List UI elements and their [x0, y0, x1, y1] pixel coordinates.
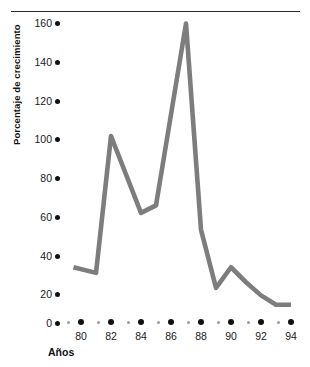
- y-tick-label-80: 80: [26, 172, 52, 184]
- y-tick-dot-40: [55, 254, 60, 259]
- y-tick-label-140: 140: [26, 56, 52, 68]
- x-tick-dot-89: [217, 321, 220, 324]
- y-tick-dot-20: [55, 292, 60, 297]
- x-tick-dot-93: [277, 321, 280, 324]
- x-tick-label-86: 86: [159, 330, 183, 342]
- growth-series-line: [74, 24, 292, 305]
- x-tick-label-90: 90: [219, 330, 243, 342]
- y-tick-dot-100: [55, 137, 60, 142]
- x-tick-dot-87: [187, 321, 190, 324]
- y-tick-dot-140: [55, 60, 60, 65]
- x-tick-dot-82: [108, 319, 114, 325]
- x-tick-label-94: 94: [279, 330, 303, 342]
- x-tick-dot-81: [97, 321, 100, 324]
- y-tick-label-20: 20: [26, 288, 52, 300]
- y-tick-label-100: 100: [26, 133, 52, 145]
- x-tick-dot-88: [198, 319, 204, 325]
- y-tick-dot-80: [55, 176, 60, 181]
- y-tick-dot-120: [55, 99, 60, 104]
- y-tick-label-120: 120: [26, 95, 52, 107]
- x-tick-label-80: 80: [69, 330, 93, 342]
- y-tick-label-0: 0: [26, 317, 52, 329]
- x-tick-dot-90: [228, 319, 234, 325]
- x-tick-dot-86: [168, 319, 174, 325]
- x-axis-title: Años: [48, 346, 74, 358]
- y-tick-label-40: 40: [26, 250, 52, 262]
- x-tick-dot-79: [67, 321, 70, 324]
- x-tick-dot-94: [288, 319, 294, 325]
- x-tick-dot-83: [127, 321, 130, 324]
- y-axis-title: Porcentaje de crecimiento: [10, 18, 24, 152]
- top-divider-rule: [11, 11, 300, 12]
- x-tick-dot-85: [157, 321, 160, 324]
- x-tick-label-84: 84: [129, 330, 153, 342]
- growth-percentage-line-chart: Porcentaje de crecimiento 160 140 120 10…: [0, 0, 310, 367]
- x-tick-dot-91: [247, 321, 250, 324]
- x-tick-label-88: 88: [189, 330, 213, 342]
- y-tick-dot-0: [55, 321, 60, 326]
- y-tick-dot-60: [55, 215, 60, 220]
- x-tick-dot-80: [78, 319, 84, 325]
- y-tick-dot-160: [55, 21, 60, 26]
- x-tick-dot-92: [258, 319, 264, 325]
- x-tick-label-82: 82: [99, 330, 123, 342]
- x-tick-dot-84: [138, 319, 144, 325]
- x-tick-label-92: 92: [249, 330, 273, 342]
- y-tick-label-60: 60: [26, 211, 52, 223]
- y-tick-label-160: 160: [26, 17, 52, 29]
